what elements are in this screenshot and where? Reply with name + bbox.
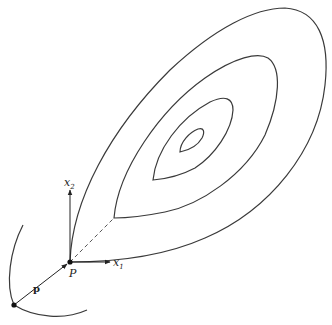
x2-axis-label: x2	[64, 176, 75, 191]
previous-point	[11, 302, 16, 307]
vector-p	[14, 264, 67, 305]
contour-diagram: P p x1 x2	[0, 0, 332, 325]
x1-axis-label: x1	[113, 256, 124, 271]
contour-inner	[180, 129, 204, 152]
contour-3	[153, 98, 233, 180]
point-p	[67, 259, 72, 264]
contour-outer	[70, 8, 326, 262]
point-label: P	[68, 267, 77, 280]
contour-2	[114, 56, 277, 218]
vector-label: p	[33, 283, 40, 294]
dashed-direction-line	[70, 218, 114, 262]
